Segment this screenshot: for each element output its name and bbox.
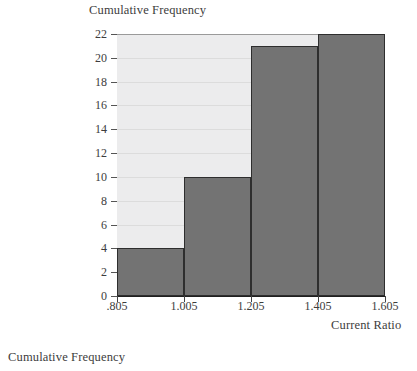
histogram-bar bbox=[184, 177, 251, 296]
cumulative-frequency-histogram-figure: Cumulative Frequency Current Ratio Cumul… bbox=[0, 0, 417, 371]
y-axis-title: Cumulative Frequency bbox=[89, 3, 206, 18]
figure-caption: Cumulative Frequency bbox=[8, 350, 125, 365]
y-axis-tick bbox=[111, 82, 117, 83]
y-axis-tick bbox=[111, 248, 117, 249]
y-axis-tick-label: 8 bbox=[0, 195, 107, 207]
y-axis-tick-label: 2 bbox=[0, 266, 107, 278]
x-axis-tick-label: 1.205 bbox=[221, 300, 281, 312]
y-axis-tick-label: 4 bbox=[0, 242, 107, 254]
y-axis-tick bbox=[111, 201, 117, 202]
y-axis-tick bbox=[111, 129, 117, 130]
y-axis-tick-label: 22 bbox=[0, 28, 107, 40]
y-axis-tick-label: 6 bbox=[0, 219, 107, 231]
plot-area bbox=[117, 34, 385, 296]
x-axis-tick-label: 1.005 bbox=[154, 300, 214, 312]
y-axis-tick bbox=[111, 105, 117, 106]
histogram-bar bbox=[251, 46, 318, 296]
y-axis-tick-label: 18 bbox=[0, 76, 107, 88]
y-axis-tick bbox=[111, 272, 117, 273]
y-axis-tick bbox=[111, 153, 117, 154]
y-axis-tick-label: 10 bbox=[0, 171, 107, 183]
y-axis-tick-label: 16 bbox=[0, 99, 107, 111]
y-axis-tick bbox=[111, 225, 117, 226]
x-axis-tick-label: .805 bbox=[87, 300, 147, 312]
x-axis-title: Current Ratio bbox=[331, 318, 401, 333]
y-axis-tick-label: 12 bbox=[0, 147, 107, 159]
y-axis-tick bbox=[111, 58, 117, 59]
histogram-bar bbox=[117, 248, 184, 296]
y-axis-tick-label: 14 bbox=[0, 123, 107, 135]
y-axis-tick bbox=[111, 177, 117, 178]
y-axis-tick-label: 20 bbox=[0, 52, 107, 64]
y-axis-tick bbox=[111, 34, 117, 35]
x-axis-tick-label: 1.605 bbox=[355, 300, 415, 312]
x-axis-tick-label: 1.405 bbox=[288, 300, 348, 312]
histogram-bar bbox=[318, 34, 385, 296]
